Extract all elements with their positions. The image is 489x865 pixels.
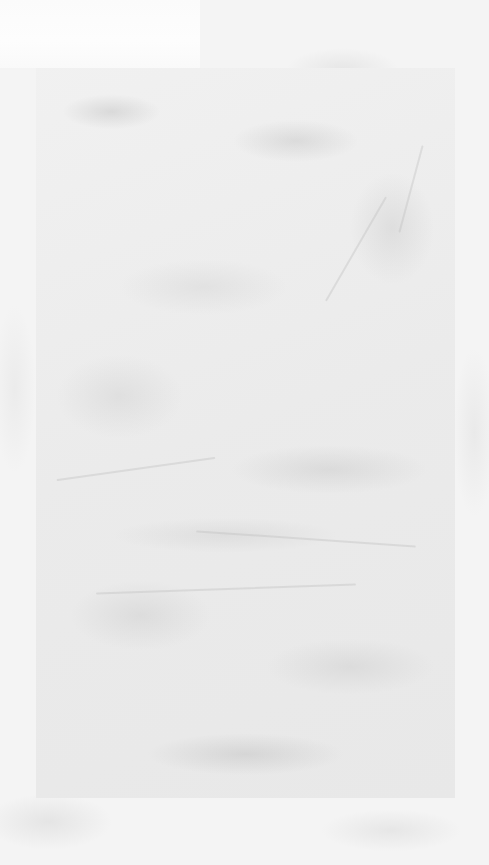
texture-streak bbox=[398, 145, 423, 232]
texture-streak bbox=[325, 197, 387, 302]
texture-streak bbox=[96, 583, 356, 594]
bright-texture-patch bbox=[0, 0, 200, 68]
texture-streak bbox=[196, 530, 416, 547]
textured-gray-panel bbox=[36, 68, 455, 798]
texture-streak bbox=[57, 457, 216, 481]
